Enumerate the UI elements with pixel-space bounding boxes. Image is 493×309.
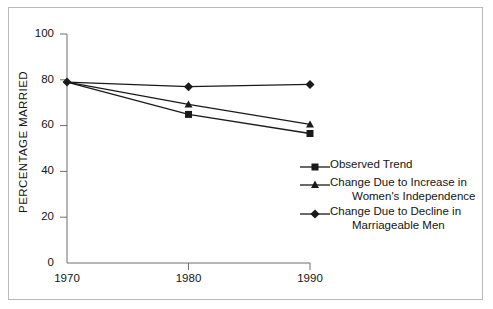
- x-tick-label-1990: 1990: [287, 272, 333, 284]
- triangle-marker-icon: [300, 178, 330, 192]
- data-point-observed-1980: [185, 111, 192, 118]
- square-marker-icon: [300, 160, 330, 174]
- data-point-observed-1990: [307, 130, 314, 137]
- y-axis-title: PERCENTAGE MARRIED: [17, 57, 29, 227]
- legend-label-marriageable-men-line1: Change Due to Decline in: [330, 205, 461, 217]
- legend-item-observed-trend[interactable]: Observed Trend: [300, 158, 480, 174]
- legend-label-marriageable-men-line2: Marriageable Men: [330, 219, 461, 233]
- legend-label-womens-independence-line1: Change Due to Increase in: [330, 176, 467, 188]
- legend-item-marriageable-men[interactable]: Change Due to Decline in Marriageable Me…: [300, 205, 480, 232]
- chart-legend: Observed Trend Change Due to Increase in…: [300, 158, 480, 234]
- y-tick-label-100: 100: [20, 27, 54, 39]
- y-tick-label-0: 0: [20, 256, 54, 268]
- legend-label-observed-trend: Observed Trend: [330, 158, 412, 170]
- legend-item-womens-independence[interactable]: Change Due to Increase in Women's Indepe…: [300, 176, 480, 203]
- diamond-marker-icon: [300, 207, 330, 221]
- data-point-decline-1970: [63, 78, 72, 87]
- legend-label-womens-independence-line2: Women's Independence: [330, 190, 475, 204]
- x-tick-label-1970: 1970: [44, 272, 90, 284]
- line-chart-canvas: [0, 0, 493, 309]
- x-tick-label-1980: 1980: [166, 272, 212, 284]
- data-point-decline-1990: [306, 80, 315, 89]
- data-point-decline-1980: [184, 82, 193, 91]
